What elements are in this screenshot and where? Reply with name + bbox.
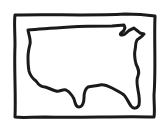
us-outline: [28, 25, 144, 108]
us-map-icon: United States map: [0, 0, 167, 136]
